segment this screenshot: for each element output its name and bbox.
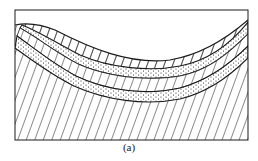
syncline-cross-section-diagram [0,0,258,161]
strata-group [15,20,248,140]
figure-caption: (a) [0,141,258,153]
